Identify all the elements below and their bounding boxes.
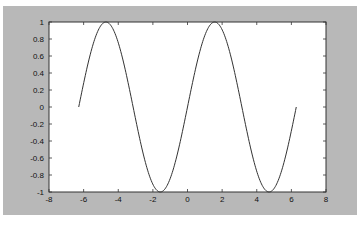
y-tick-label: 1 <box>40 18 45 27</box>
y-tick-label: 0 <box>40 103 45 112</box>
x-tick-label: 0 <box>185 195 190 204</box>
x-tick-label: -4 <box>115 195 123 204</box>
y-tick-label: -1 <box>37 188 45 197</box>
y-tick-label: 0.6 <box>33 52 45 61</box>
y-tick-label: 0.4 <box>33 69 45 78</box>
x-tick-label: 2 <box>220 195 225 204</box>
x-tick-label: 4 <box>255 195 260 204</box>
y-tick-label: 0.2 <box>33 86 45 95</box>
x-tick-label: -6 <box>80 195 88 204</box>
x-tick-label: 6 <box>289 195 294 204</box>
sine-chart: -8-6-4-202468 -1-0.8-0.6-0.4-0.200.20.40… <box>0 0 360 227</box>
y-tick-label: 0.8 <box>33 35 45 44</box>
y-tick-label: -0.6 <box>30 154 44 163</box>
x-tick-label: -2 <box>149 195 157 204</box>
y-tick-label: -0.2 <box>30 120 44 129</box>
y-tick-label: -0.8 <box>30 171 44 180</box>
x-tick-label: 8 <box>324 195 329 204</box>
x-tick-label: -8 <box>45 195 53 204</box>
y-tick-label: -0.4 <box>30 137 44 146</box>
